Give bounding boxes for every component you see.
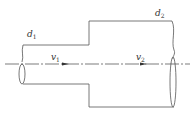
pipe-diagram: d1 d2 v1 v2	[0, 0, 195, 122]
narrow-pipe	[19, 45, 89, 84]
label-v2: v2	[136, 52, 145, 63]
label-v1: v1	[51, 52, 60, 63]
label-d1: d1	[27, 29, 37, 40]
velocity-arrow-1	[62, 63, 69, 66]
label-d2: d2	[155, 8, 165, 19]
